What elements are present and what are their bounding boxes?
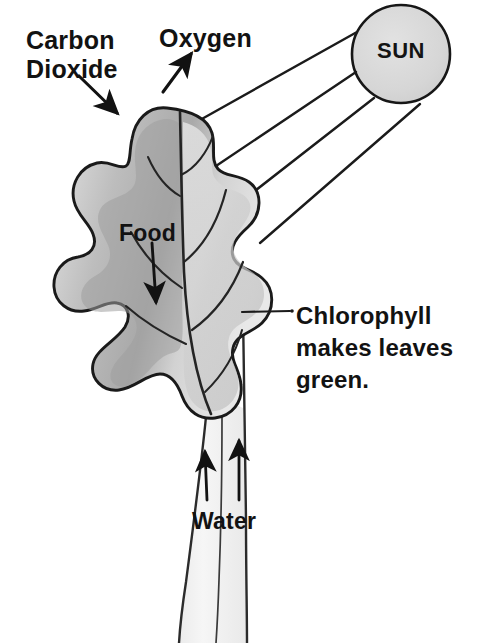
- chlorophyll-leader-line: [242, 311, 290, 312]
- sun-ray-3: [242, 98, 374, 201]
- label-oxygen: Oxygen: [159, 24, 252, 52]
- leaf-group: [54, 108, 272, 418]
- label-water: Water: [192, 509, 256, 535]
- chlorophyll-leader-dot: [290, 309, 294, 313]
- water-arrow-left: [205, 452, 207, 500]
- photosynthesis-diagram: Carbon Dioxide Oxygen Food Chlorophyll m…: [0, 0, 479, 643]
- label-chlorophyll: Chlorophyll makes leaves green.: [296, 300, 453, 396]
- label-sun: SUN: [364, 38, 438, 64]
- sun-ray-2: [213, 72, 356, 168]
- label-food: Food: [119, 221, 176, 247]
- label-carbon-dioxide: Carbon Dioxide: [26, 26, 118, 84]
- oxygen-arrow: [163, 54, 191, 92]
